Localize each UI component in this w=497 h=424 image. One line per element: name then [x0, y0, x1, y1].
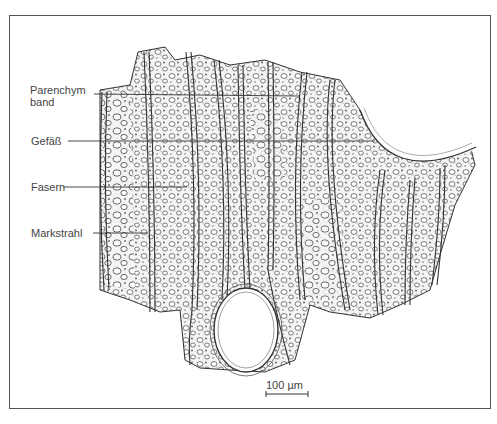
label-markstrahl: Markstrahl — [31, 227, 82, 239]
label-parenchymband-line2: band — [30, 96, 86, 108]
label-parenchymband: Parenchym band — [30, 84, 86, 108]
vessel-bottom — [214, 288, 278, 372]
scale-bar-line — [266, 391, 308, 397]
scale-bar-label: 100 µm — [266, 379, 303, 391]
label-gefaess: Gefäß — [31, 135, 62, 147]
label-fasern: Fasern — [31, 181, 65, 193]
wood-section-drawing — [0, 0, 497, 424]
label-parenchymband-line1: Parenchym — [30, 84, 86, 96]
